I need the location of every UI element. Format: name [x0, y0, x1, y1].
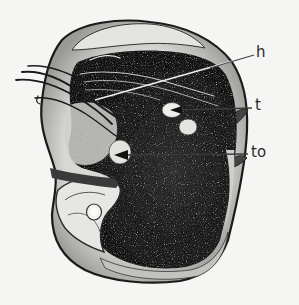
anatomical-figure: h t to [0, 0, 299, 305]
label-h: h [256, 45, 266, 60]
label-to: to [251, 145, 266, 160]
specimen-body [41, 21, 248, 283]
nodule-t-lower [179, 119, 197, 135]
label-t: t [255, 98, 261, 113]
